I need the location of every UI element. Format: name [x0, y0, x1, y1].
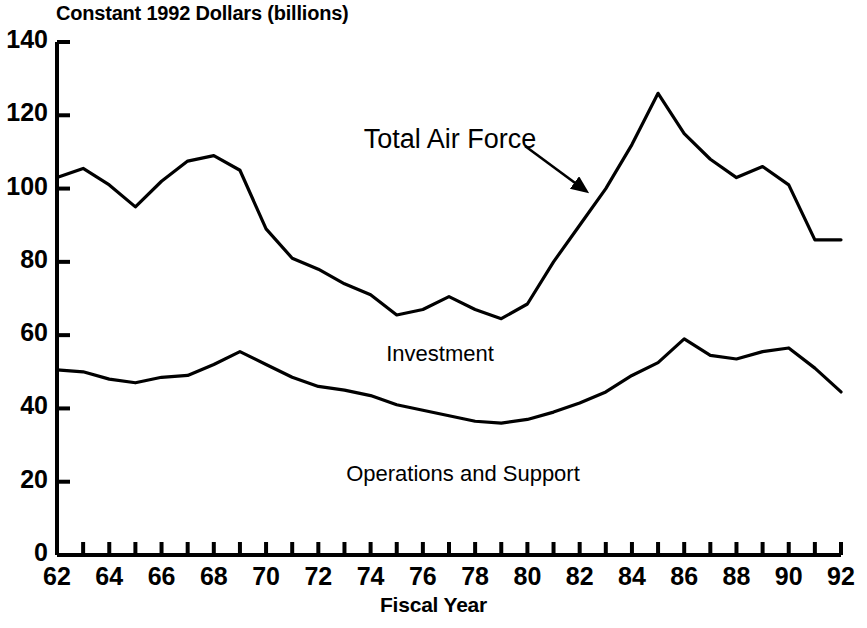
x-axis-title: Fiscal Year — [0, 593, 867, 617]
x-axis-tick-label: 68 — [200, 562, 228, 591]
x-axis-tick-label: 92 — [827, 562, 855, 591]
x-axis-tick-label: 66 — [148, 562, 176, 591]
chart-annotation-label: Total Air Force — [364, 124, 537, 155]
x-axis-tick-label: 76 — [409, 562, 437, 591]
x-axis-tick-label: 86 — [670, 562, 698, 591]
y-axis-tick-label: 0 — [0, 538, 48, 567]
x-axis-tick-label: 84 — [618, 562, 646, 591]
y-axis-tick-label: 80 — [0, 245, 48, 274]
y-axis-tick-label: 20 — [0, 465, 48, 494]
y-axis-tick-label: 40 — [0, 391, 48, 420]
y-axis-tick-label: 120 — [0, 98, 48, 127]
x-axis-tick-label: 80 — [513, 562, 541, 591]
chart-annotation-label: Operations and Support — [346, 461, 580, 487]
x-axis-tick-label: 74 — [357, 562, 385, 591]
x-axis-tick-label: 70 — [252, 562, 280, 591]
chart-annotation-label: Investment — [386, 341, 494, 367]
x-axis-tick-label: 72 — [304, 562, 332, 591]
chart-plot-area — [0, 0, 867, 628]
y-axis-tick-label: 100 — [0, 172, 48, 201]
y-axis-tick-label: 140 — [0, 25, 48, 54]
x-axis-tick-label: 90 — [775, 562, 803, 591]
x-axis-tick-label: 62 — [43, 562, 71, 591]
x-axis-tick-label: 78 — [461, 562, 489, 591]
x-axis-tick-label: 64 — [95, 562, 123, 591]
y-axis-tick-label: 60 — [0, 318, 48, 347]
x-axis-tick-label: 82 — [566, 562, 594, 591]
chart-container: Constant 1992 Dollars (billions) 0204060… — [0, 0, 867, 628]
x-axis-tick-label: 88 — [723, 562, 751, 591]
